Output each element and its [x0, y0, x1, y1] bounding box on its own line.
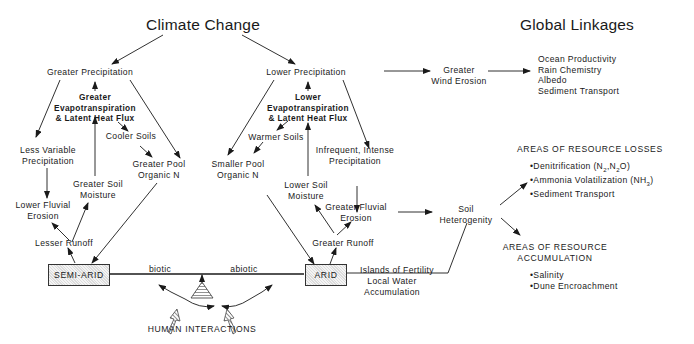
title-climate-change: Climate Change [146, 16, 260, 34]
label-abiotic: abiotic [230, 264, 257, 275]
loss-item: Ammonia Volatilization (NH3) [530, 175, 654, 189]
loss-item: Denitrification (N2,N2O) [530, 161, 654, 175]
lesser-runoff: Lesser Runoff [35, 238, 93, 249]
heading-resource-accumulation: AREAS OF RESOURCE ACCUMULATION [503, 242, 608, 263]
fulcrum-triangle [191, 282, 213, 298]
islands-of-fertility: Islands of Fertility [360, 265, 434, 276]
greater-precipitation: Greater Precipitation [47, 67, 133, 78]
lower-precipitation: Lower Precipitation [266, 67, 346, 78]
label-human-interactions: HUMAN INTERACTIONS [148, 324, 257, 335]
lower-evapotranspiration: Lower Evapotranspiration & Latent Heat F… [267, 92, 349, 124]
heading-resource-losses: AREAS OF RESOURCE LOSSES [517, 144, 663, 155]
semi-arid-box: SEMI-ARID [48, 264, 110, 286]
cooler-soils: Cooler Soils [106, 131, 157, 142]
greater-fluvial-erosion: Greater Fluvial Erosion [325, 202, 387, 223]
accumulation-item: Dune Encroachment [530, 281, 618, 292]
arid-box: ARID [305, 264, 347, 286]
smaller-pool-organic-n: Smaller Pool Organic N [212, 159, 265, 180]
lower-soil-moisture: Lower Soil Moisture [284, 180, 328, 201]
accumulation-item: Salinity [530, 270, 618, 281]
warmer-soils: Warmer Soils [248, 132, 303, 143]
title-global-linkages: Global Linkages [520, 16, 634, 34]
greater-soil-moisture: Greater Soil Moisture [73, 179, 123, 200]
resource-accumulation-list: Salinity Dune Encroachment [530, 270, 618, 291]
infrequent-intense-precipitation: Infrequent, Intense Precipitation [316, 145, 394, 166]
greater-evapotranspiration: Greater Evapotranspiration & Latent Heat… [54, 92, 136, 124]
soil-heterogenity: Soil Heterogenity [440, 204, 493, 225]
less-variable-precipitation: Less Variable Precipitation [20, 145, 76, 166]
greater-runoff: Greater Runoff [312, 238, 374, 249]
local-water-accumulation: Local Water Accumulation [364, 276, 420, 297]
greater-pool-organic-n: Greater Pool Organic N [133, 159, 186, 180]
greater-wind-erosion: Greater Wind Erosion [431, 65, 486, 86]
loss-item: Sediment Transport [530, 189, 654, 200]
resource-losses-list: Denitrification (N2,N2O) Ammonia Volatil… [530, 161, 654, 200]
global-linkage-list: Ocean Productivity Rain Chemistry Albedo… [538, 54, 619, 96]
lower-fluvial-erosion: Lower Fluvial Erosion [15, 200, 70, 221]
label-biotic: biotic [149, 264, 171, 275]
